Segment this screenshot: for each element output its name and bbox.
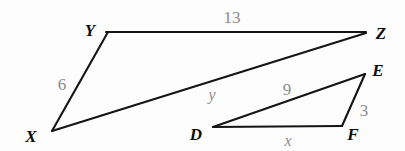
- vertex-label-f: F: [347, 126, 358, 143]
- segment-DF: [213, 126, 342, 127]
- geometry-diagram: Y Z X E D F 13 6 y 9 3 x: [0, 0, 405, 151]
- measure-label-xz: y: [208, 87, 215, 103]
- vertex-label-e: E: [372, 62, 383, 79]
- measure-label-df: x: [284, 133, 291, 149]
- vertex-label-z: Z: [376, 25, 386, 42]
- triangle-XYZ-group: [52, 32, 366, 131]
- measure-label-xy: 6: [58, 76, 67, 93]
- vertex-label-y: Y: [85, 22, 95, 39]
- vertex-label-x: X: [25, 128, 36, 145]
- vertex-label-d: D: [190, 126, 202, 143]
- measure-label-yz: 13: [224, 9, 241, 26]
- measure-label-ef: 3: [360, 102, 369, 119]
- measure-label-de: 9: [283, 81, 292, 98]
